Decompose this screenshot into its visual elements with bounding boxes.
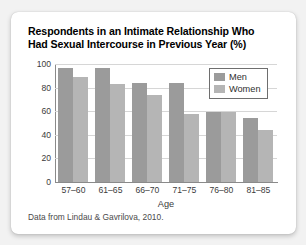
y-tick-label: 0 (46, 177, 51, 187)
chart-legend: Men Women (209, 68, 268, 99)
y-tick-label: 20 (41, 153, 51, 163)
legend-label-men: Men (229, 72, 247, 82)
bar-group (92, 64, 129, 182)
bar-men (132, 83, 147, 182)
x-tick-label: 76–80 (203, 185, 240, 195)
bar-women (110, 84, 125, 182)
chart-card: Respondents in an Intimate Relationship … (11, 12, 296, 234)
x-tick-label: 81–85 (240, 185, 277, 195)
y-tick-label: 100 (37, 59, 51, 69)
x-axis-title: Age (55, 199, 277, 209)
bar-chart: 100 80 60 40 20 0 (11, 12, 296, 234)
bar-group (129, 64, 166, 182)
source-note: Data from Lindau & Gavrilova, 2010. (28, 212, 163, 222)
page-background: Respondents in an Intimate Relationship … (0, 0, 306, 245)
x-tick-label: 57–60 (55, 185, 92, 195)
legend-item-men: Men (214, 72, 261, 82)
bar-men (243, 118, 258, 182)
y-tick-label: 40 (41, 130, 51, 140)
legend-swatch-men-icon (214, 73, 225, 81)
bar-men (58, 68, 73, 182)
x-tick-label: 61–65 (92, 185, 129, 195)
gridline: 0 (55, 182, 277, 183)
x-axis-labels: 57–60 61–65 66–70 71–75 76–80 81–85 (55, 185, 277, 195)
y-tick-label: 60 (41, 106, 51, 116)
x-tick-label: 66–70 (129, 185, 166, 195)
bar-women (73, 77, 88, 182)
bar-group (55, 64, 92, 182)
legend-item-women: Women (214, 84, 261, 94)
bar-women (184, 114, 199, 182)
bar-men (95, 68, 110, 182)
bar-men (206, 112, 221, 182)
legend-label-women: Women (229, 84, 261, 94)
bar-women (258, 130, 273, 182)
legend-swatch-women-icon (214, 85, 225, 93)
bar-group (166, 64, 203, 182)
y-tick-label: 80 (41, 83, 51, 93)
x-tick-label: 71–75 (166, 185, 203, 195)
bar-men (169, 83, 184, 182)
bar-women (147, 95, 162, 182)
bar-women (221, 112, 236, 182)
